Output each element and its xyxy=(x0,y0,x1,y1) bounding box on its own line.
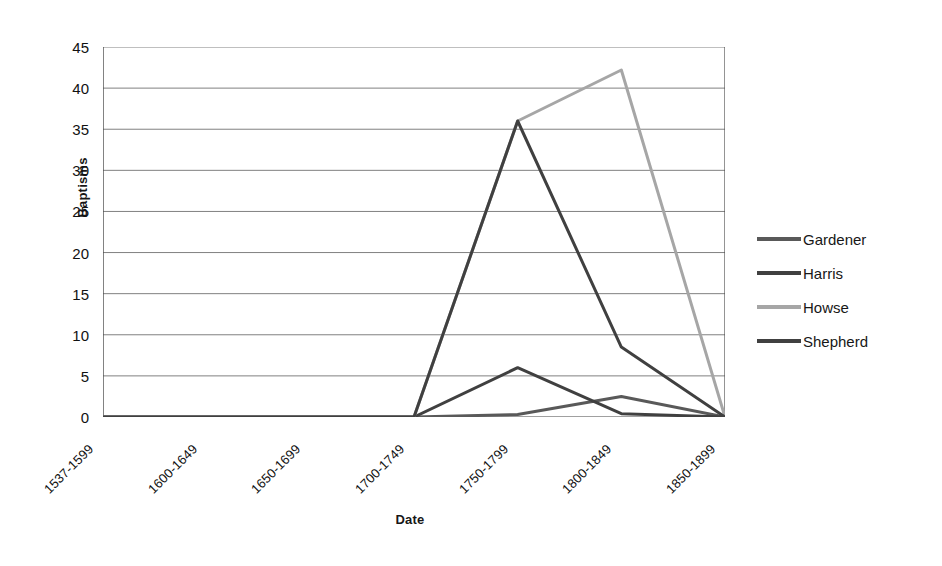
y-axis-tick-label: 40 xyxy=(45,80,89,97)
x-axis-tick-label: 1800-1849 xyxy=(559,441,614,496)
legend-item[interactable]: Shepherd xyxy=(757,324,932,358)
legend-item[interactable]: Howse xyxy=(757,290,932,324)
legend-line-swatch xyxy=(757,339,801,343)
legend-item[interactable]: Gardener xyxy=(757,222,932,256)
x-axis-tick-label: 1750-1799 xyxy=(456,441,511,496)
legend-item[interactable]: Harris xyxy=(757,256,932,290)
legend-item-label: Harris xyxy=(801,265,843,282)
legend-item-label: Howse xyxy=(801,299,849,316)
y-axis-tick-label: 10 xyxy=(45,326,89,343)
y-axis-tick-label: 30 xyxy=(45,162,89,179)
x-axis-tick-label: 1700-1749 xyxy=(352,441,407,496)
x-axis-tick-labels: 1537-15991600-16491650-16991700-17491750… xyxy=(103,424,725,514)
y-axis-tick-label: 25 xyxy=(45,203,89,220)
x-axis-tick-label: 1537-1599 xyxy=(41,441,96,496)
y-axis-tick-label: 35 xyxy=(45,121,89,138)
series-lines xyxy=(103,47,725,417)
x-axis-tick-label: 1600-1649 xyxy=(145,441,200,496)
x-axis-title: Date xyxy=(300,512,520,527)
y-axis-tick-label: 20 xyxy=(45,244,89,261)
legend-item-label: Shepherd xyxy=(801,333,868,350)
x-axis-tick-label: 1850-1899 xyxy=(663,441,718,496)
legend-line-swatch xyxy=(757,237,801,241)
legend-line-swatch xyxy=(757,305,801,309)
y-axis-tick-labels: 454035302520151050 xyxy=(43,47,89,417)
series-line xyxy=(103,121,725,417)
legend-item-label: Gardener xyxy=(801,231,866,248)
x-axis-tick-label: 1650-1699 xyxy=(248,441,303,496)
series-line xyxy=(103,70,725,417)
series-line xyxy=(103,368,725,417)
line-chart: Baptisms 454035302520151050 1537-1599160… xyxy=(0,0,942,566)
y-axis-tick-label: 5 xyxy=(45,367,89,384)
y-axis-tick-label: 45 xyxy=(45,39,89,56)
y-axis-tick-label: 0 xyxy=(45,409,89,426)
chart-legend: GardenerHarrisHowseShepherd xyxy=(757,222,932,358)
legend-line-swatch xyxy=(757,271,801,275)
plot-area xyxy=(103,47,725,417)
y-axis-tick-label: 15 xyxy=(45,285,89,302)
